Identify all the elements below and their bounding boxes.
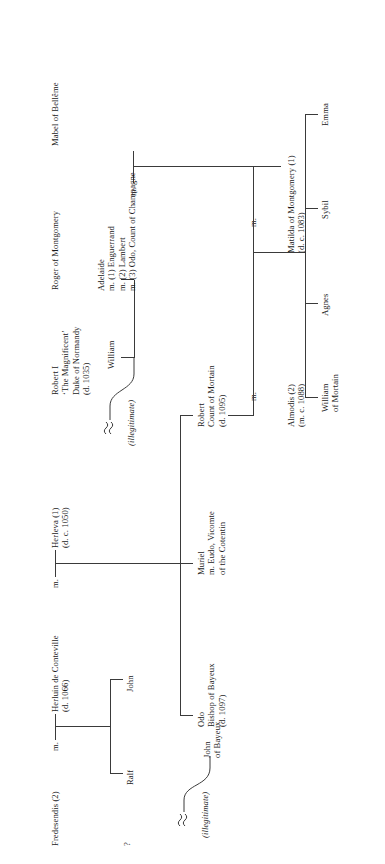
stem-muriel — [180, 563, 193, 564]
family-tree-diagram: Fredesendis (2) m. Herluin de Conteville… — [0, 0, 385, 864]
sibling-bar-ralf-john — [110, 680, 111, 774]
person-john-of-bayeux: John of Bayeux — [202, 722, 223, 758]
person-ralf: Ralf — [125, 770, 135, 785]
person-herluin-de-conteville: Herluin de Conteville (d. 1066) — [50, 635, 71, 712]
person-robert-i-normandy: Robert I ‘The Magnificent’ Duke of Norma… — [50, 327, 92, 395]
person-william-of-mortain: William of Mortain — [320, 374, 341, 412]
sibling-bar-odo-muriel-robert — [180, 416, 181, 716]
sibling-bar-william-adelaide — [134, 280, 135, 358]
stem-robert-mortain — [180, 415, 193, 416]
sibling-bar-mortain-children — [305, 115, 306, 398]
stem-emma — [305, 114, 318, 115]
person-william-the-conqueror: William — [106, 340, 116, 369]
person-robert-count-of-mortain: Robert Count of Mortain (d. 1095) — [196, 365, 227, 427]
stem-william — [121, 357, 134, 358]
stem-william-of-mortain — [305, 397, 318, 398]
descent-line-to-children-of-robert — [253, 252, 305, 253]
descent-curve-herleva-robert — [110, 340, 180, 420]
person-almodis: Almodis (2) (m. c. 1088) — [286, 384, 307, 427]
marriage-symbol-fredesendis-herluin: m. — [50, 742, 60, 751]
person-fredesendis: Fredesendis (2) — [50, 791, 60, 846]
marriage-line-fredesendis-herluin — [55, 714, 56, 740]
person-matilda-of-montgomery: Matilda of Montgomery (1) (d. c. 1083) — [286, 155, 307, 253]
person-odo-bishop-of-bayeux: Odo Bishop of Bayeux (d. 1097) — [196, 663, 227, 727]
marriage-line-robert-almodis — [253, 390, 254, 416]
person-roger-of-montgomery: Roger of Montgomery — [50, 211, 60, 290]
person-emma: Emma — [320, 103, 330, 126]
stem-sybil — [305, 208, 318, 209]
stem-john — [110, 679, 123, 680]
person-agnes: Agnes — [320, 294, 330, 316]
marriage-symbol-roger-mabel: m. — [128, 187, 138, 196]
person-sybil: Sybil — [320, 200, 330, 219]
person-john: John — [125, 675, 135, 692]
descent-line-fredesendis-herluin — [55, 726, 110, 727]
person-unknown: ? — [122, 842, 132, 846]
descent-line-robert-mortain — [228, 415, 253, 416]
stem-odo — [180, 715, 193, 716]
person-herleva: Herleva (1) (d. c. 1050) — [50, 507, 71, 548]
person-muriel: Muriel m. Eudo, Vicomte of the Cotentin — [196, 511, 227, 575]
stem-ralf — [110, 773, 123, 774]
marriage-symbol-herluin-herleva: m. — [50, 579, 60, 588]
stem-agnes — [305, 303, 318, 304]
person-mabel-of-belleme: Mabel of Bellême — [50, 82, 60, 146]
marriage-line-robert-matilda — [253, 166, 254, 390]
descent-line-herluin-herleva — [55, 563, 180, 564]
descent-line-roger-mabel-to-matilda — [133, 166, 281, 167]
